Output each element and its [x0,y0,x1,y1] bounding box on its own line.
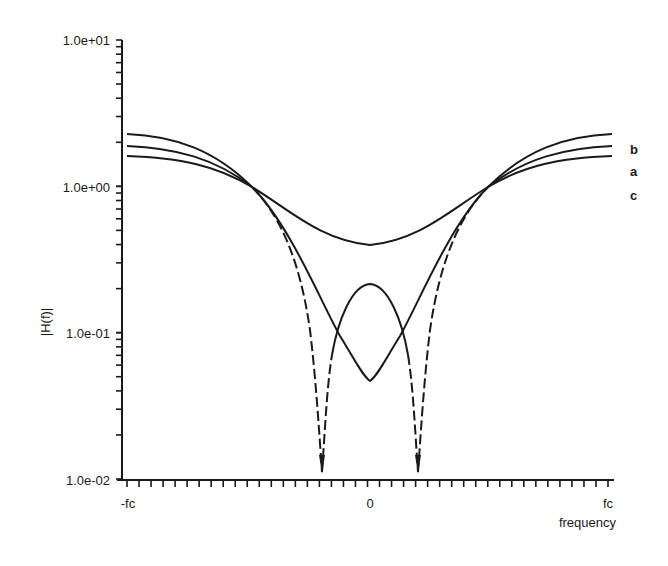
curve-label-a: a [630,164,638,179]
curve-b-dashed-inner-left [322,355,332,472]
y-axis-title: |H(f)| [38,308,53,336]
x-tick-label-zero: 0 [366,496,373,511]
frequency-response-chart: 1.0e+01 1.0e+00 1.0e-01 1.0e-02 |H(f)| -… [0,0,668,566]
curve-label-b: b [630,142,638,157]
curve-label-c: c [630,188,637,203]
curve-b-hump [332,284,408,355]
curve-b-dashed-inner-right [408,355,418,472]
x-axis-title: frequency [559,515,617,530]
curve-b-solid [127,134,252,187]
x-tick-label-fc: fc [603,496,614,511]
curve-c [127,156,612,245]
x-tick-label-neg-fc: -fc [121,496,136,511]
y-tick-label-1: 1.0e+00 [63,180,110,195]
null-spike-left [319,455,325,474]
curve-b-dashed-right [418,187,488,472]
y-tick-label-0-01: 1.0e-02 [66,473,110,488]
curve-b-dashed-left [252,187,322,472]
x-axis-ticks [127,480,608,487]
curve-b-solid-right [488,134,612,187]
null-spike-right [415,455,421,474]
curve-a [127,146,612,381]
y-tick-label-10: 1.0e+01 [63,33,110,48]
y-tick-label-0-1: 1.0e-01 [66,326,110,341]
